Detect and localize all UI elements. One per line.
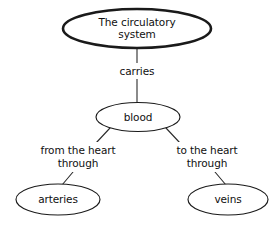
edge-label-carries: carries xyxy=(112,63,162,79)
edge-label-from-the-heart-through: from the heart through xyxy=(22,142,134,172)
edge-label-carries-text: carries xyxy=(120,65,155,77)
edge-label-from-the-heart-through-line2: through xyxy=(58,157,99,169)
node-veins-label: veins xyxy=(214,193,241,205)
node-blood[interactable]: blood xyxy=(96,103,180,132)
connector-blood-to-arteries-upper xyxy=(96,128,110,143)
node-arteries-label: arteries xyxy=(38,193,78,205)
connector-blood-to-veins-upper xyxy=(166,128,180,143)
edge-label-to-the-heart-through-line1: to the heart xyxy=(176,144,237,156)
node-blood-label: blood xyxy=(124,111,153,123)
node-arteries[interactable]: arteries xyxy=(16,184,100,215)
edge-label-from-the-heart-through-line1: from the heart xyxy=(41,144,116,156)
node-circulatory-system[interactable]: The circulatory system xyxy=(63,9,211,48)
edge-label-to-the-heart-through: to the heart through xyxy=(158,142,256,172)
concept-map-canvas: The circulatory system blood arteries ve… xyxy=(0,0,278,225)
edge-label-to-the-heart-through-line2: through xyxy=(187,157,228,169)
node-veins[interactable]: veins xyxy=(188,184,268,215)
node-circulatory-system-label-line2: system xyxy=(118,28,155,40)
concept-map-diagram: The circulatory system blood arteries ve… xyxy=(0,0,278,225)
connector-blood-to-veins-lower xyxy=(215,172,226,185)
connector-blood-to-arteries-lower xyxy=(62,172,73,185)
node-circulatory-system-label-line1: The circulatory xyxy=(98,16,176,28)
